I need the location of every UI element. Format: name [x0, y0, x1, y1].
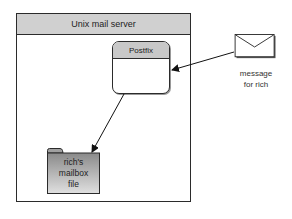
arrow-message-to-postfix: [172, 52, 234, 70]
arrow-postfix-to-mailbox: [92, 94, 124, 152]
arrows: [0, 0, 292, 219]
